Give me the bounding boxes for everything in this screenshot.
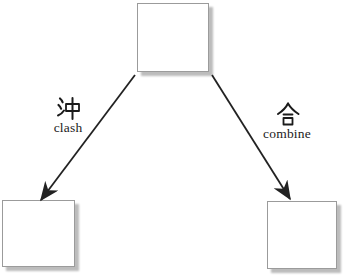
hanzi-combine-glyph — [275, 101, 301, 127]
combine-label: combine — [259, 127, 315, 141]
top-box — [137, 3, 209, 72]
bottom-left-box — [2, 200, 75, 267]
clash-label: clash — [40, 121, 96, 135]
diagram-canvas: clash combine — [0, 0, 345, 278]
hanzi-clash-glyph — [55, 95, 81, 121]
clash-arrow — [41, 75, 135, 200]
bottom-right-box — [267, 201, 337, 269]
